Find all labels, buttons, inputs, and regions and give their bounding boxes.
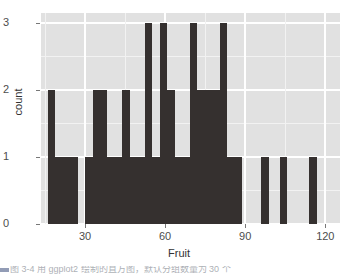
x-tick-mark xyxy=(165,224,166,228)
histogram-figure: count 0123306090120 Fruit 图 3-4 用 ggplot… xyxy=(0,0,358,278)
histogram-bar xyxy=(205,90,212,224)
histogram-bar xyxy=(100,90,107,224)
x-tick-label: 60 xyxy=(159,231,171,242)
x-tick-label: 90 xyxy=(239,231,251,242)
gridline-minor-x xyxy=(45,13,46,224)
y-axis-title: count xyxy=(12,72,24,132)
x-axis-title: Fruit xyxy=(0,247,358,259)
x-tick-label: 120 xyxy=(316,231,334,242)
histogram-bar xyxy=(48,90,55,224)
y-tick-label: 1 xyxy=(3,151,9,162)
gridline-major-x xyxy=(324,13,326,224)
y-tick-mark xyxy=(36,90,40,91)
caption-marker-icon xyxy=(0,268,9,272)
y-tick-mark xyxy=(36,23,40,24)
histogram-bar xyxy=(130,157,137,224)
y-tick-label: 0 xyxy=(3,218,9,229)
gridline-major-x xyxy=(244,13,246,224)
histogram-bar xyxy=(197,90,204,224)
x-tick-mark xyxy=(325,224,326,228)
y-tick-label: 3 xyxy=(3,17,9,28)
histogram-bar xyxy=(182,157,189,224)
x-tick-label: 30 xyxy=(79,231,91,242)
figure-caption: 图 3-4 用 ggplot2 绘制的直方图，默认分组数量为 30 个 xyxy=(10,266,231,275)
histogram-bar xyxy=(160,23,167,224)
y-tick-label: 2 xyxy=(3,84,9,95)
histogram-bar xyxy=(55,157,62,224)
histogram-bar xyxy=(63,157,70,224)
histogram-bar xyxy=(212,90,219,224)
histogram-bar xyxy=(167,90,174,224)
histogram-bar xyxy=(122,90,129,224)
plot-panel xyxy=(41,13,340,224)
figure-caption-strip: 图 3-4 用 ggplot2 绘制的直方图，默认分组数量为 30 个 xyxy=(0,266,358,278)
histogram-bar xyxy=(152,157,159,224)
x-tick-mark xyxy=(245,224,246,228)
histogram-bar xyxy=(309,157,316,224)
histogram-bar xyxy=(93,90,100,224)
histogram-bar xyxy=(175,157,182,224)
histogram-bar xyxy=(220,23,227,224)
y-tick-mark xyxy=(36,224,40,225)
histogram-bar xyxy=(85,157,92,224)
histogram-bar xyxy=(137,157,144,224)
histogram-bar xyxy=(227,157,234,224)
histogram-bar xyxy=(235,157,242,224)
histogram-bar xyxy=(115,157,122,224)
histogram-bar xyxy=(280,157,287,224)
x-tick-mark xyxy=(85,224,86,228)
histogram-bar xyxy=(70,157,77,224)
y-tick-mark xyxy=(36,157,40,158)
histogram-bar xyxy=(261,157,268,224)
histogram-bar xyxy=(145,23,152,224)
histogram-bar xyxy=(107,157,114,224)
histogram-bar xyxy=(190,23,197,224)
